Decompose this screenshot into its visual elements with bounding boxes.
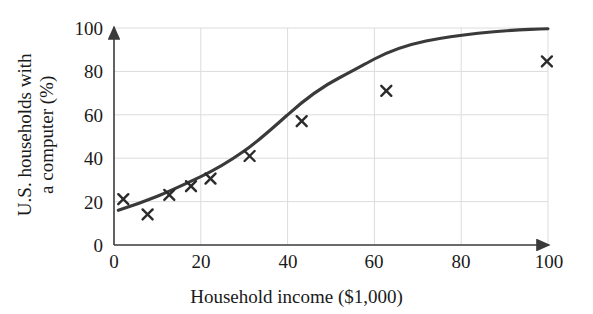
data-point-marker	[542, 56, 552, 66]
gridlines-horizontal	[114, 28, 548, 202]
chart-figure: 100 80 60 40 20 0 0 20 40 60 80 100 Hous…	[0, 0, 593, 314]
y-axis-title-line-1: U.S. households with	[14, 54, 36, 217]
x-tick-label-80: 80	[452, 252, 471, 271]
x-axis-title: Household income ($1,000)	[0, 286, 593, 308]
data-point-marker	[206, 174, 216, 184]
data-point-marker	[297, 116, 307, 126]
y-axis-title: U.S. households with a computer (%)	[8, 0, 64, 270]
y-axis-title-line-2: a computer (%)	[36, 54, 58, 217]
x-tick-label-100: 100	[535, 252, 564, 271]
data-point-marker	[245, 151, 255, 161]
data-point-marker	[381, 86, 391, 96]
x-tick-label-40: 40	[279, 252, 298, 271]
fitted-curve	[118, 29, 548, 211]
data-point-marker	[143, 209, 153, 219]
x-tick-label-0: 0	[109, 252, 119, 271]
x-tick-label-60: 60	[365, 252, 384, 271]
x-tick-label-20: 20	[192, 252, 211, 271]
data-point-marker	[118, 194, 128, 204]
